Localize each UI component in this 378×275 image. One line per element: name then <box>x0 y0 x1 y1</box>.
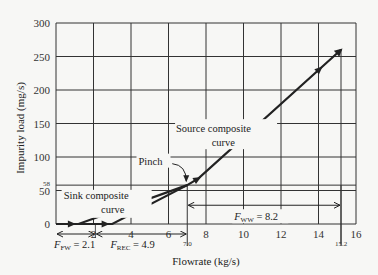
x-tick-label: 14 <box>313 228 325 240</box>
y-tick-label: 0 <box>45 218 51 230</box>
curve-arrow-marker <box>102 221 110 228</box>
f-rec-label: FREC = 4.9 <box>109 239 154 252</box>
pinch-label: Pinch <box>139 156 164 167</box>
x-tick-label: 8 <box>203 228 209 240</box>
x-tick-label-extra: 7.0 <box>183 240 192 248</box>
y-tick-label: 250 <box>34 51 51 63</box>
pinch-pointer-arrow <box>172 164 186 181</box>
x-tick-label: 10 <box>238 228 250 240</box>
y-axis-label: Impurity load (mg/s) <box>14 82 27 174</box>
pinch-composite-chart: 246810121416050100150200250300587.015.2 … <box>0 0 378 275</box>
curve-arrow-marker <box>68 221 76 228</box>
y-tick-label: 200 <box>34 84 51 96</box>
f-fw-label: FFW = 2.1 <box>53 239 95 252</box>
x-tick-label: 16 <box>351 228 363 240</box>
y-tick-label-extra: 58 <box>43 180 51 188</box>
x-axis-label: Flowrate (kg/s) <box>172 255 240 268</box>
source-composite-label-line2: curve <box>212 137 236 148</box>
source-composite-label: Source composite <box>176 123 251 134</box>
y-tick-label: 300 <box>34 17 51 29</box>
y-tick-label: 100 <box>34 151 51 163</box>
sink-composite-label: Sink composite <box>64 190 129 201</box>
x-tick-label: 12 <box>276 228 287 240</box>
x-tick-label-extra: 15.2 <box>335 240 348 248</box>
y-tick-label: 150 <box>34 118 51 130</box>
sink-composite-label-line2: curve <box>101 204 125 215</box>
